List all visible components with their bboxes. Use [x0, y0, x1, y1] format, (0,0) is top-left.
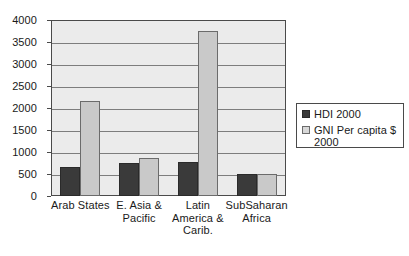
y-tick-label: 1500 — [12, 124, 37, 136]
legend-swatch-icon — [302, 126, 310, 134]
legend-label: HDI 2000 — [314, 108, 361, 121]
bar — [257, 174, 277, 196]
x-category-label: SubSaharanAfrica — [221, 199, 292, 224]
bar — [198, 31, 218, 196]
bar — [60, 167, 80, 196]
bar — [119, 163, 139, 196]
x-axis-labels: Arab StatesE. Asia &PacificLatinAmerica … — [51, 199, 286, 251]
chart-legend: HDI 2000GNI Per capita $ 2000 — [296, 103, 404, 148]
legend-swatch-icon — [302, 110, 310, 118]
bar — [139, 158, 159, 196]
x-category-label-line: Carib. — [163, 224, 234, 237]
legend-item[interactable]: HDI 2000 — [302, 108, 403, 121]
bars-layer — [51, 20, 286, 196]
y-tick-label: 500 — [18, 168, 37, 180]
bar-chart: 05001000150020002500300035004000 Arab St… — [0, 0, 409, 256]
legend-item[interactable]: GNI Per capita $ 2000 — [302, 124, 403, 149]
y-tick-label: 0 — [31, 190, 37, 202]
y-tick-label: 2000 — [12, 102, 37, 114]
y-tick-label: 1000 — [12, 146, 37, 158]
x-category-label-line: Africa — [221, 212, 292, 225]
y-tick-label: 2500 — [12, 80, 37, 92]
y-tick-label: 4000 — [12, 14, 37, 26]
x-category-label-line: SubSaharan — [221, 199, 292, 212]
y-tick-label: 3000 — [12, 58, 37, 70]
y-tick-mark — [47, 196, 51, 197]
bar — [237, 174, 257, 196]
y-tick-label: 3500 — [12, 36, 37, 48]
bar — [178, 162, 198, 196]
y-axis: 05001000150020002500300035004000 — [0, 20, 44, 196]
bar — [80, 101, 100, 196]
legend-label: GNI Per capita $ 2000 — [314, 124, 403, 149]
